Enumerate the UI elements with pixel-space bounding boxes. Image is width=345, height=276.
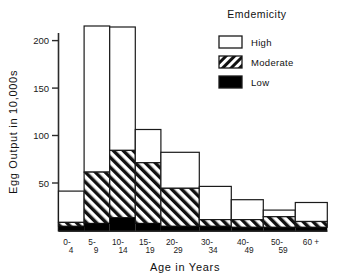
bar-segment-moderate-3 bbox=[135, 163, 161, 224]
legend-swatch-high bbox=[219, 36, 242, 48]
legend: Emdemicity High Moderate Low bbox=[219, 8, 294, 88]
legend-label-moderate: Moderate bbox=[251, 57, 294, 68]
bar-segment-moderate-0 bbox=[59, 222, 85, 226]
bar-group-0 bbox=[59, 191, 85, 231]
x-tick-label-7-bottom: 59 bbox=[278, 245, 288, 255]
bar-group-7 bbox=[263, 210, 295, 231]
bar-segment-high-1 bbox=[84, 26, 110, 172]
x-tick-label-5-bottom: 34 bbox=[208, 245, 218, 255]
chart-svg: 200 150 100 50 Egg Output in 10,000s bbox=[0, 0, 345, 276]
x-tick-label-3-bottom: 19 bbox=[145, 245, 155, 255]
bar-segment-moderate-2 bbox=[110, 150, 136, 217]
bar-group-1 bbox=[84, 26, 110, 231]
legend-swatch-moderate bbox=[219, 56, 242, 68]
y-tick-label-200: 200 bbox=[33, 35, 49, 46]
bar-segment-moderate-7 bbox=[263, 217, 295, 228]
bar-group-6 bbox=[231, 200, 263, 231]
bar-segment-high-8 bbox=[295, 203, 327, 222]
chart-figure: 200 150 100 50 Egg Output in 10,000s bbox=[0, 0, 345, 276]
bar-segment-moderate-5 bbox=[199, 220, 231, 227]
legend-entry-moderate[interactable]: Moderate bbox=[219, 56, 294, 68]
bar-group-8 bbox=[295, 203, 327, 232]
x-tick-label-6-bottom: 49 bbox=[244, 245, 254, 255]
bar-segment-moderate-8 bbox=[295, 222, 327, 228]
legend-label-low: Low bbox=[251, 77, 269, 88]
x-tick-label-2-bottom: 14 bbox=[118, 245, 128, 255]
bar-segment-high-6 bbox=[231, 200, 263, 220]
bar-segment-high-0 bbox=[59, 191, 85, 222]
x-tick-label-1-bottom: 9 bbox=[94, 245, 99, 255]
y-tick-label-150: 150 bbox=[33, 83, 49, 94]
legend-label-high: High bbox=[251, 37, 272, 48]
bar-segment-moderate-1 bbox=[84, 172, 110, 223]
bar-segment-low-0 bbox=[59, 226, 85, 231]
x-axis-title: Age in Years bbox=[150, 261, 220, 273]
legend-entry-high[interactable]: High bbox=[219, 36, 272, 48]
legend-swatch-low bbox=[219, 76, 242, 88]
bar-segment-high-2 bbox=[110, 27, 136, 150]
bar-group-4 bbox=[161, 152, 199, 231]
legend-entry-low[interactable]: Low bbox=[219, 76, 269, 88]
y-axis: 200 150 100 50 Egg Output in 10,000s bbox=[7, 33, 59, 232]
y-tick-label-100: 100 bbox=[33, 130, 49, 141]
bar-segment-moderate-6 bbox=[231, 220, 263, 228]
bar-segment-moderate-4 bbox=[161, 188, 199, 226]
x-axis: 0- 4 5- 9 10- 14 15- 19 20- 29 30- 34 40… bbox=[59, 231, 328, 273]
bar-segment-high-4 bbox=[161, 152, 199, 188]
legend-title: Emdemicity bbox=[227, 8, 287, 20]
bar-segment-low-4 bbox=[161, 226, 199, 231]
x-tick-label-0-bottom: 4 bbox=[69, 245, 74, 255]
y-tick-label-50: 50 bbox=[38, 178, 49, 189]
bar-segment-low-1 bbox=[84, 223, 110, 231]
bar-group-2 bbox=[110, 27, 136, 231]
y-axis-title: Egg Output in 10,000s bbox=[7, 70, 19, 194]
bar-group-3 bbox=[135, 130, 161, 232]
bar-segment-low-3 bbox=[135, 223, 161, 231]
bar-segment-high-5 bbox=[199, 186, 231, 219]
bar-segment-high-7 bbox=[263, 210, 295, 217]
x-tick-label-4-bottom: 29 bbox=[173, 245, 183, 255]
x-tick-label-8-top: 60 + bbox=[303, 237, 320, 247]
bar-group-5 bbox=[199, 186, 231, 231]
bar-segment-high-3 bbox=[135, 130, 161, 163]
bar-segment-low-5 bbox=[199, 226, 231, 231]
bar-segment-low-2 bbox=[110, 218, 136, 231]
